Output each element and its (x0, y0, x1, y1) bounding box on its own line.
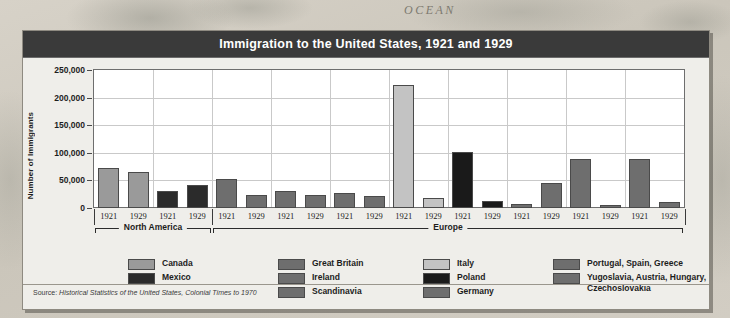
x-tick-label: 1929 (366, 211, 383, 221)
x-tick-label: 1921 (513, 211, 530, 221)
legend-label: Yugoslavia, Austria, Hungary,Czechoslova… (587, 272, 706, 294)
legend-swatch (423, 273, 450, 284)
x-tick-label: 1921 (631, 211, 648, 221)
legend-swatch (128, 273, 155, 284)
x-tick-label: 1921 (395, 211, 412, 221)
legend-item[interactable]: Germany (423, 286, 494, 297)
y-tick-mark (87, 98, 92, 99)
region-bracket-tick-left (213, 228, 214, 233)
x-tick-label: 1921 (572, 211, 589, 221)
x-tick-label: 1921 (336, 211, 353, 221)
axis-end-tick (94, 209, 95, 225)
bar (659, 202, 680, 208)
legend-label: Great Britain (312, 258, 364, 268)
source-prefix: Source: (33, 289, 59, 296)
bar (334, 193, 355, 208)
region-bracket-tick-left (95, 228, 96, 233)
x-tick-label: 1929 (602, 211, 619, 221)
x-tick-label: 1921 (218, 211, 235, 221)
legend-swatch (553, 273, 580, 284)
legend-column: Great BritainIrelandScandinavia (278, 258, 364, 300)
bar (98, 168, 119, 208)
legend-swatch (423, 259, 450, 270)
x-tick-label: 1929 (248, 211, 265, 221)
legend-column: CanadaMexico (128, 258, 193, 286)
bar (128, 172, 149, 208)
legend-item[interactable]: Italy (423, 258, 494, 269)
y-tick-mark (87, 153, 92, 154)
bar (511, 204, 532, 208)
region-label: Europe (428, 222, 467, 232)
bar (275, 191, 296, 208)
y-tick-label: 150,000 (54, 120, 85, 130)
legend-label: Ireland (312, 272, 340, 282)
legend-label: Scandinavia (312, 286, 362, 296)
x-tick-label: 1929 (484, 211, 501, 221)
legend-label: Germany (457, 286, 494, 296)
y-tick-mark (87, 70, 92, 71)
x-tick-label: 1921 (277, 211, 294, 221)
page-title: Immigration to the United States, 1921 a… (219, 37, 513, 51)
region-bracket-tick-right (210, 228, 211, 233)
bar (364, 196, 385, 208)
x-tick-label: 1929 (661, 211, 678, 221)
legend-label: Mexico (162, 272, 191, 282)
bar (157, 191, 178, 208)
legend-label: Portugal, Spain, Greece (587, 258, 683, 268)
y-axis-ticks: 050,000100,000150,000200,000250,000 (23, 58, 91, 210)
legend-swatch (278, 259, 305, 270)
y-tick-label: 250,000 (54, 65, 85, 75)
y-tick-label: 50,000 (59, 175, 85, 185)
source-divider (23, 284, 709, 285)
legend-item[interactable]: Yugoslavia, Austria, Hungary,Czechoslova… (553, 272, 706, 294)
y-tick-label: 0 (80, 203, 85, 213)
y-tick-mark (87, 180, 92, 181)
bar (305, 195, 326, 208)
bar (423, 198, 444, 208)
bar (187, 185, 208, 208)
legend-item[interactable]: Portugal, Spain, Greece (553, 258, 706, 269)
legend-item[interactable]: Poland (423, 272, 494, 283)
axis-end-tick (685, 209, 686, 225)
legend-item[interactable]: Ireland (278, 272, 364, 283)
legend-item[interactable]: Mexico (128, 272, 193, 283)
source-citation: Historical Statistics of the United Stat… (59, 289, 257, 296)
x-tick-label: 1929 (425, 211, 442, 221)
region-bracket: North America (95, 228, 211, 242)
plot-area: Number of Immigrants 050,000100,000150,0… (23, 58, 709, 254)
x-tick-label: 1929 (130, 211, 147, 221)
legend-swatch (553, 259, 580, 270)
y-tick-label: 100,000 (54, 148, 85, 158)
ocean-map-label: OCEAN (404, 3, 456, 18)
x-tick-label: 1921 (454, 211, 471, 221)
legend-item[interactable]: Scandinavia (278, 286, 364, 297)
x-tick-label: 1929 (543, 211, 560, 221)
bar (629, 159, 650, 208)
bar (452, 152, 473, 208)
legend-item[interactable]: Canada (128, 258, 193, 269)
region-separator (212, 209, 213, 225)
legend-item[interactable]: Great Britain (278, 258, 364, 269)
legend-swatch (278, 273, 305, 284)
chart-title-bar: Immigration to the United States, 1921 a… (23, 31, 709, 58)
legend-column: Portugal, Spain, GreeceYugoslavia, Austr… (553, 258, 706, 297)
legend-swatch (128, 259, 155, 270)
y-tick-mark (87, 208, 92, 209)
legend-swatch (423, 287, 450, 298)
region-group-bars: North AmericaEurope (93, 228, 685, 242)
bar (246, 195, 267, 208)
bar-series (94, 70, 684, 208)
region-bracket: Europe (213, 228, 683, 242)
bar (570, 159, 591, 208)
legend-swatch (278, 287, 305, 298)
legend-label: Poland (457, 272, 485, 282)
region-label: North America (119, 222, 187, 232)
bar (482, 201, 503, 208)
legend-label: Italy (457, 258, 474, 268)
y-tick-label: 200,000 (54, 93, 85, 103)
x-tick-label: 1929 (189, 211, 206, 221)
bar (600, 205, 621, 208)
chart-card: Immigration to the United States, 1921 a… (22, 30, 710, 310)
legend-label: Canada (162, 258, 193, 268)
bar (216, 179, 237, 208)
